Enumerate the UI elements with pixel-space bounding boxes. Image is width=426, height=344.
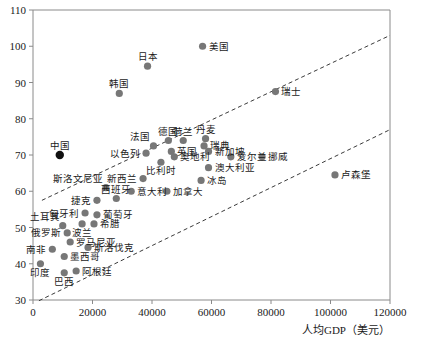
y-tick-label: 30	[15, 294, 27, 306]
data-point	[113, 195, 120, 202]
x-axis-title: 人均GDP（美元）	[302, 324, 390, 336]
point-label: 法国	[130, 131, 150, 142]
point-label: 中国	[50, 140, 70, 151]
x-tick-label: 100000	[314, 306, 348, 318]
data-point	[49, 246, 56, 253]
data-point	[93, 197, 100, 204]
chart-canvas: 020000400006000080000100000120000 304050…	[0, 0, 426, 344]
y-tick-label: 40	[15, 258, 27, 270]
point-label: 日本	[138, 51, 158, 62]
y-tick-label: 70	[15, 149, 27, 161]
data-point	[73, 267, 80, 274]
point-label: 希腊	[100, 218, 120, 229]
data-point	[81, 209, 88, 216]
point-label: 冰岛	[207, 175, 227, 186]
point-label: 奥地利	[180, 151, 210, 162]
y-tick-label: 90	[15, 77, 27, 89]
data-point	[331, 171, 338, 178]
x-tick-label: 80000	[257, 306, 285, 318]
point-label: 捷克	[71, 195, 91, 206]
data-point	[37, 260, 44, 267]
point-label: 巴西	[54, 277, 74, 287]
data-point	[90, 220, 97, 227]
data-point	[93, 211, 100, 218]
point-label: 荷兰	[173, 126, 193, 137]
data-point	[202, 135, 209, 142]
y-tick-label: 50	[15, 222, 27, 234]
data-point	[116, 90, 123, 97]
point-label: 南非	[26, 244, 46, 255]
data-point	[197, 177, 204, 184]
x-tick-label: 0	[30, 306, 36, 318]
y-axis-ticks: 30405060708090100110	[10, 4, 34, 306]
data-point	[272, 88, 279, 95]
y-tick-label: 60	[15, 185, 27, 197]
data-point	[144, 63, 151, 70]
point-label: 挪威	[268, 151, 288, 162]
data-point	[61, 253, 68, 260]
y-tick-label: 80	[15, 113, 27, 125]
y-tick-label: 110	[10, 4, 27, 16]
point-label: 加拿大	[173, 186, 203, 197]
point-label: 爱尔兰	[237, 151, 267, 162]
data-point	[56, 151, 64, 159]
data-point	[142, 150, 149, 157]
point-label: 瑞士	[281, 86, 301, 97]
data-point	[78, 220, 85, 227]
x-tick-label: 120000	[374, 306, 408, 318]
data-point	[64, 229, 71, 236]
x-tick-label: 20000	[79, 306, 107, 318]
x-tick-label: 60000	[198, 306, 226, 318]
data-point	[61, 269, 68, 276]
data-point	[157, 159, 164, 166]
scatter-chart: 020000400006000080000100000120000 304050…	[0, 0, 426, 344]
y-tick-label: 100	[10, 40, 27, 52]
point-label: 新西兰	[107, 173, 137, 184]
point-label: 澳大利亚	[215, 162, 255, 173]
point-label: 以色列	[110, 148, 140, 159]
point-label: 墨西哥	[70, 252, 100, 262]
point-label: 韩国	[109, 78, 129, 89]
point-label: 西班牙	[101, 184, 131, 195]
point-label: 斯洛文尼亚	[53, 173, 103, 184]
data-point	[180, 137, 187, 144]
point-label: 卢森堡	[341, 169, 371, 180]
data-point	[199, 43, 206, 50]
x-axis-ticks: 020000400006000080000100000120000	[30, 300, 407, 318]
point-label: 比利时	[146, 165, 176, 176]
point-label: 丹麦	[196, 124, 216, 135]
data-point	[205, 164, 212, 171]
point-label: 印度	[30, 267, 50, 278]
point-label: 土耳其	[30, 211, 60, 222]
data-point	[67, 238, 74, 245]
point-label: 美国	[209, 41, 229, 52]
x-tick-label: 40000	[138, 306, 166, 318]
point-label: 波兰	[72, 227, 92, 238]
point-label: 意大利	[137, 186, 167, 197]
point-label: 阿根廷	[82, 266, 112, 277]
data-point	[165, 137, 172, 144]
point-label: 俄罗斯	[31, 227, 61, 238]
data-point	[150, 142, 157, 149]
